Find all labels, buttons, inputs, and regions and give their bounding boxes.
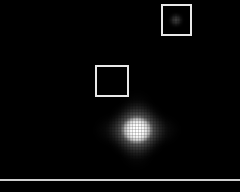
bottom-scan-line [0,179,240,181]
aperture-box-lower[interactable] [95,65,129,97]
image-viewer[interactable] [0,0,240,192]
aperture-box-upper[interactable] [161,4,192,36]
